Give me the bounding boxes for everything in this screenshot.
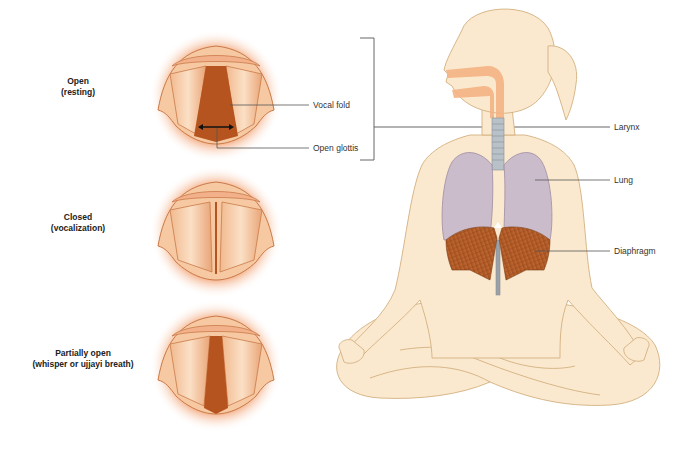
callout-lung: Lung (614, 175, 633, 185)
diagram-canvas: Open (resting) Closed (vocalization) Par… (0, 0, 689, 461)
vocal-folds-closed (150, 166, 282, 298)
seated-figure (337, 9, 660, 405)
callout-larynx: Larynx (614, 122, 640, 132)
callout-open-glottis: Open glottis (313, 143, 358, 153)
vocal-folds-open (150, 30, 282, 162)
callout-diaphragm: Diaphragm (614, 246, 656, 256)
vocal-folds-partially-open (150, 300, 282, 432)
illustration (0, 0, 689, 461)
callout-vocal-fold: Vocal fold (313, 100, 350, 110)
